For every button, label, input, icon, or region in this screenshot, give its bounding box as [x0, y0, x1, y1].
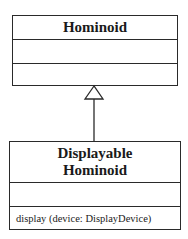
- class-name-line-1: Displayable: [57, 145, 132, 162]
- class-name-line-2: Hominoid: [63, 162, 127, 179]
- operations-compartment: display (device: DisplayDevice): [10, 207, 180, 229]
- class-box-displayable-hominoid: Displayable Hominoid display (device: Di…: [9, 141, 181, 230]
- hollow-triangle-arrowhead-icon: [85, 86, 103, 99]
- operation-display: display (device: DisplayDevice): [16, 213, 151, 224]
- class-name-compartment: Displayable Hominoid: [10, 142, 180, 183]
- attributes-compartment: [10, 183, 180, 207]
